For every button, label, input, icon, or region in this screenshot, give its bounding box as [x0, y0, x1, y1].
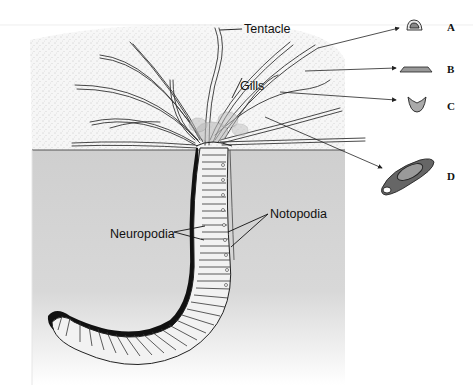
label-gills: Gills [240, 80, 264, 93]
section-letter-c: C [447, 101, 455, 112]
cross-section-d [382, 159, 435, 195]
label-notopodia: Notopodia [270, 208, 327, 221]
section-letter-b: B [447, 64, 454, 75]
polychaete-diagram: Tentacle Gills Notopodia Neuropodia A B … [0, 0, 473, 385]
cross-section-b [400, 67, 432, 72]
diagram-illustration [0, 0, 473, 385]
label-neuropodia: Neuropodia [110, 228, 175, 241]
section-letter-d: D [447, 171, 455, 182]
section-letter-a: A [447, 22, 455, 33]
label-tentacle: Tentacle [244, 23, 291, 36]
